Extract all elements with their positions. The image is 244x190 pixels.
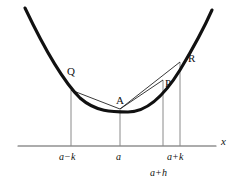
point-label-R: R [188, 53, 196, 64]
tick-label-a-minus-k: a−k [59, 152, 76, 162]
point-label-A: A [116, 95, 124, 106]
axis-label-x: x [221, 136, 226, 147]
tick-label-a-plus-k: a+k [167, 152, 184, 162]
point-label-Q: Q [67, 66, 75, 77]
tick-label-a-plus-h: a+h [150, 168, 167, 178]
chord-A-P [120, 80, 163, 109]
tick-label-a: a [116, 152, 121, 162]
point-label-P: P [165, 78, 171, 89]
parabola-figure: Q A P R x a−k a a+k a+h [0, 0, 244, 190]
